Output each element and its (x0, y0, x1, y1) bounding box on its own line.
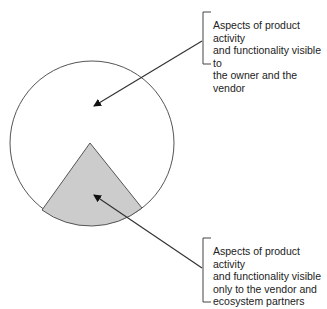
top-label-bracket (203, 12, 211, 64)
bottom-label-bracket (203, 238, 211, 302)
bottom-arrow (94, 195, 202, 268)
top-label: Aspects of product activity and function… (213, 19, 327, 94)
bottom-label: Aspects of product activity and function… (213, 245, 327, 308)
